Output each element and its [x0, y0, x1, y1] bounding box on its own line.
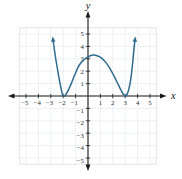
x-tick-label: −4 [34, 99, 42, 106]
x-tick-label: 2 [111, 99, 115, 106]
y-tick-label: −3 [77, 132, 85, 139]
polynomial-graph-figure: −5−4−3−2−112345−5−4−3−2−112345 x y [0, 0, 182, 179]
y-axis-top-arrow-icon [86, 11, 91, 18]
x-tick-label: 5 [148, 99, 152, 106]
x-tick-label: 1 [99, 99, 102, 106]
polynomial-curve [51, 36, 137, 96]
curve-left-arrow-icon [51, 36, 55, 42]
y-tick-label: 2 [80, 68, 84, 75]
x-tick-label: −5 [21, 99, 29, 106]
y-axis-label: y [85, 0, 91, 11]
x-tick-label: 4 [136, 99, 140, 106]
x-tick-label: −1 [71, 99, 78, 106]
x-tick-label: −3 [46, 99, 54, 106]
axes [8, 11, 167, 171]
y-tick-label: −2 [77, 119, 85, 126]
curve-path [53, 40, 135, 96]
y-axis-bottom-arrow-icon [86, 165, 91, 172]
tick-labels: −5−4−3−2−112345−5−4−3−2−112345 [21, 30, 152, 163]
y-tick-label: −1 [77, 107, 84, 114]
x-axis-left-arrow-icon [8, 94, 15, 99]
y-tick-label: 1 [80, 80, 83, 87]
y-tick-label: 5 [80, 30, 84, 37]
graph-canvas: −5−4−3−2−112345−5−4−3−2−112345 x y [0, 0, 182, 179]
x-axis-label: x [170, 90, 176, 101]
y-tick-label: −5 [77, 157, 85, 164]
y-tick-label: 4 [80, 43, 84, 50]
x-axis-right-arrow-icon [160, 94, 167, 99]
curve-right-arrow-icon [133, 36, 137, 42]
x-tick-label: −2 [58, 99, 66, 106]
x-tick-label: 3 [123, 99, 127, 106]
y-tick-label: −4 [77, 144, 85, 151]
